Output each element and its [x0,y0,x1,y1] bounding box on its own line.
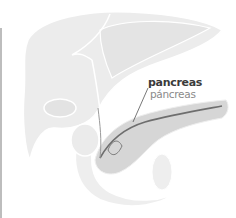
label-pancreas-spanish: páncreas [150,88,196,100]
anatomy-illustration [0,0,236,218]
gallbladder [44,99,76,117]
duodenum-loop [71,124,99,156]
spleen-shadow [152,154,172,190]
